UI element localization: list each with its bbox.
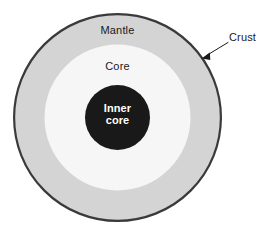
crust-leader-line — [202, 43, 229, 60]
core-label: Core — [0, 61, 235, 73]
mantle-label: Mantle — [0, 25, 235, 37]
inner-core-label: Inner core — [85, 103, 150, 127]
inner-core-label-line2: core — [85, 115, 150, 127]
crust-label: Crust — [229, 32, 256, 44]
earth-structure-diagram: Mantle Core Inner core Crust — [0, 0, 269, 234]
